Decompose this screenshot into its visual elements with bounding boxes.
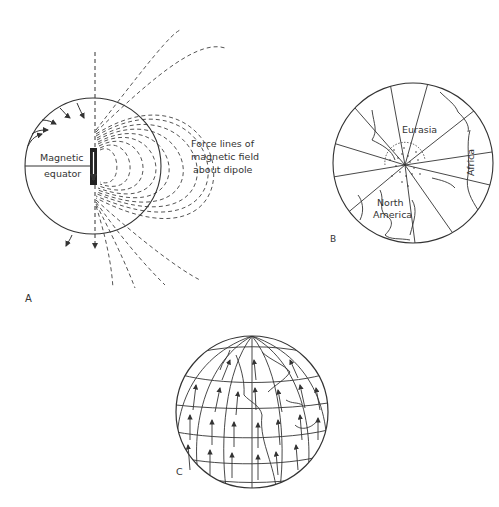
panel-b: Eurasia North America Africa B [330,83,493,244]
panel-a: Magnetic equator Force lines of magnetic… [25,30,259,304]
panel-label-b: B [330,234,336,244]
figure-canvas: Magnetic equator Force lines of magnetic… [0,0,499,507]
field-label-1: Force lines of [191,138,255,149]
africa-label: Africa [465,149,476,176]
eurasia-label: Eurasia [402,124,437,135]
panel-label-c: C [176,466,183,477]
north-label: North [377,197,404,208]
panel-label-a: A [25,293,32,304]
field-label-3: about dipole [193,164,253,175]
equator-label-1: Magnetic [40,152,84,163]
equator-label-2: equator [44,168,81,179]
america-label: America [373,209,412,220]
panel-c: C [176,336,328,488]
field-label-2: magnetic field [191,151,259,162]
